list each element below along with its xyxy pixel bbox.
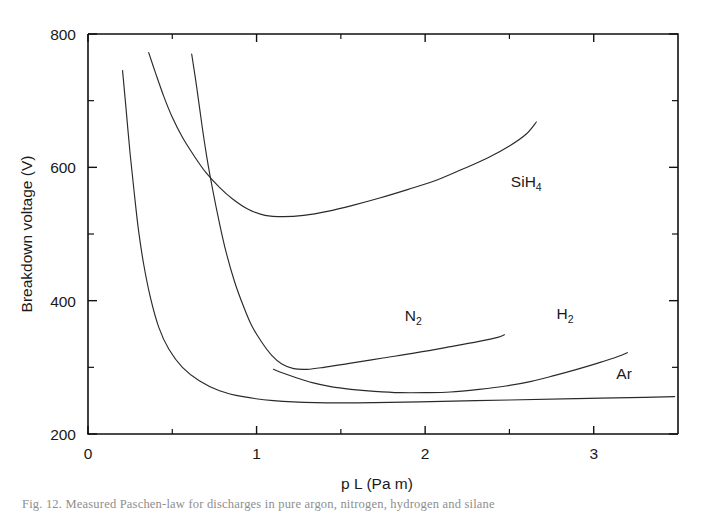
series-label-ar: Ar (616, 365, 632, 382)
figure-caption: Fig. 12. Measured Paschen-law for discha… (22, 497, 682, 512)
series-label-h2: H2 (557, 305, 574, 325)
y-axis-title: Breakdown voltage (V) (18, 156, 35, 313)
paschen-law-chart: 0123200400600800p L (Pa m)Breakdown volt… (0, 0, 701, 495)
x-tick-label: 1 (252, 445, 261, 462)
curve-ar (123, 71, 675, 403)
y-tick-label: 200 (50, 426, 76, 443)
x-tick-label: 0 (84, 445, 93, 462)
axis-frame-left-bottom (88, 34, 678, 434)
series-label-sih4: SiH4 (511, 173, 542, 193)
series-label-n2: N2 (405, 307, 422, 327)
x-axis-title: p L (Pa m) (341, 475, 413, 492)
figure-container: 0123200400600800p L (Pa m)Breakdown volt… (0, 0, 701, 515)
x-tick-label: 2 (421, 445, 430, 462)
y-tick-label: 800 (50, 26, 76, 43)
y-tick-label: 600 (50, 159, 76, 176)
y-tick-label: 400 (50, 293, 76, 310)
curve-h2 (273, 353, 627, 393)
axis-frame-top-right (88, 34, 678, 434)
curve-n2 (192, 54, 505, 369)
curve-sih4 (149, 53, 537, 217)
x-tick-label: 3 (589, 445, 598, 462)
